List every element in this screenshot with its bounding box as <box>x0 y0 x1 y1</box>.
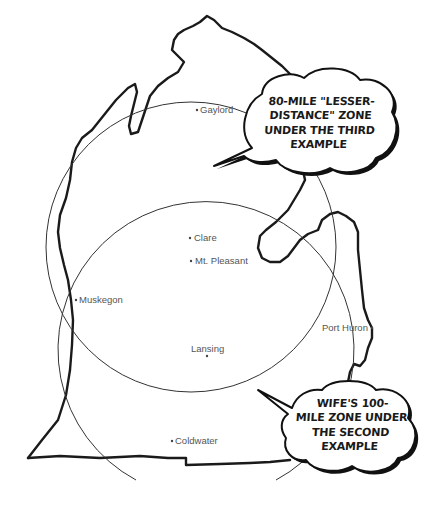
callout-line: THE SECOND <box>287 426 414 440</box>
city-dot-gaylord <box>196 109 198 111</box>
southern-border <box>28 456 290 465</box>
callout-text-lesser-distance: 80-MILE "LESSER- DISTANCE" ZONE UNDER TH… <box>248 95 392 152</box>
callout-line: WIFE'S 100- <box>289 397 416 411</box>
city-dot-lansing <box>206 355 208 357</box>
callout-line: UNDER THE THIRD <box>249 124 390 138</box>
callout-line: EXAMPLE <box>248 138 389 152</box>
city-label-port-huron: Port Huron <box>322 323 368 333</box>
city-dot-coldwater <box>171 440 173 442</box>
city-dot-clare <box>189 237 191 239</box>
city-label-mt-pleasant: Mt. Pleasant <box>195 256 248 266</box>
city-label-coldwater: Coldwater <box>175 436 218 446</box>
callout-line: 80-MILE "LESSER- <box>251 95 392 109</box>
city-label-lansing: Lansing <box>191 344 224 354</box>
city-dot-muskegon <box>75 299 77 301</box>
city-label-muskegon: Muskegon <box>79 295 123 305</box>
callout-line: EXAMPLE <box>286 440 413 454</box>
callout-text-wife-zone: WIFE'S 100- MILE ZONE UNDER THE SECOND E… <box>286 397 416 454</box>
callout-line: DISTANCE" ZONE <box>250 109 391 123</box>
city-label-gaylord: Gaylord <box>200 105 233 115</box>
city-dot-mt-pleasant <box>190 260 192 262</box>
city-label-clare: Clare <box>194 233 217 243</box>
city-dot-port-huron <box>371 327 373 329</box>
callout-line: MILE ZONE UNDER <box>288 411 415 425</box>
